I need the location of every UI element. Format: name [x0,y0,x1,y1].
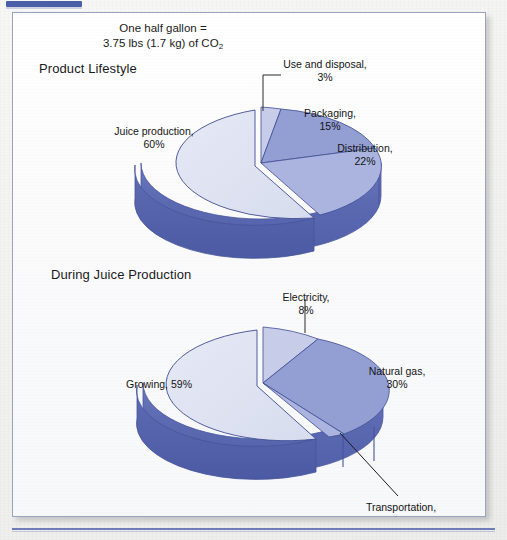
chart-1-label-juice-production: Juice production, 60% [89,125,219,151]
chart-2-label-natural-gas: Natural gas, 30% [345,365,449,391]
footer-rule [12,528,495,530]
footer-rule-shadow [12,531,495,532]
accent-bar-shadow [6,7,82,9]
chart-2-label-growing: Growing, 59% [99,378,219,391]
chart-1-svg [13,13,485,273]
chart-2-svg [13,271,485,516]
chart-1-label-distribution: Distribution, 22% [319,142,411,168]
figure-panel: One half gallon = 3.75 lbs (1.7 kg) of C… [12,12,486,517]
chart-1-label-packaging: Packaging, 15% [285,107,375,133]
chart-2 [13,271,485,516]
chart-2-label-electricity: Electricity, 8% [256,291,356,317]
chart-1-label-use-disposal: Use and disposal, 3% [265,58,385,84]
chart-2-label-transportation: Transportation, 3% [345,501,457,517]
chart-1 [13,13,485,273]
